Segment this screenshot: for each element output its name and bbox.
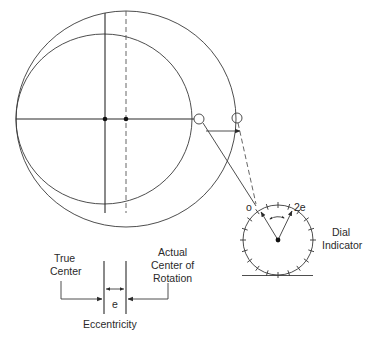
eccentricity-diagram: o 2e Dial Indicator True Center Actual C… [0,0,370,342]
actual-center-label-line3: Rotation [153,272,192,284]
true-center-label-line2: Center [50,265,82,277]
full-deflection-label: 2e [294,201,306,213]
actual-center-dot [124,117,129,122]
true-center-dot [103,117,108,122]
dial-indicator [240,202,316,278]
probe-contact-max [232,113,242,123]
dial-label-line1: Dial [332,226,350,238]
pointer-zero [261,212,278,240]
actual-center-label-line2: Center of [151,259,194,271]
true-center-label-line1: True [54,252,75,264]
e-label: e [112,298,118,310]
leader-solid [203,123,256,206]
pointer-2e [278,211,292,240]
dial-label-line2: Indicator [322,239,363,251]
eccentricity-label: Eccentricity [83,318,137,330]
probe-contact-min [194,114,204,124]
actual-center-label-line1: Actual [158,246,187,258]
sweep-arc [270,217,284,219]
zero-mark-label: o [246,201,252,213]
